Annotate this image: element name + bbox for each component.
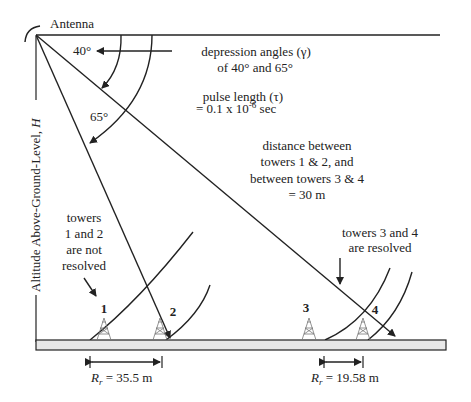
angle-arc-40 [102, 35, 121, 88]
range-left-label: Rr = 35.5 m [90, 370, 152, 387]
altitude-axis-label: Altitude Above-Ground-Level, H [28, 118, 43, 292]
antenna-label: Antenna [50, 16, 94, 31]
radar-resolution-diagram: Antenna Altitude Above-Ground-Level, H 4… [0, 0, 471, 402]
tower-4-label: 4 [372, 302, 379, 317]
distance-text-line4: = 30 m [289, 187, 326, 202]
not-resolved-arrow [84, 278, 96, 296]
resolved-line2: are resolved [348, 240, 412, 255]
not-resolved-line3: are not [66, 242, 102, 257]
pulse-length-value: = 0.1 x 10-6 sec [196, 100, 276, 116]
angle-65-label: 65° [90, 109, 108, 124]
depression-angles-values: of 40° and 65° [217, 60, 293, 75]
tower-2-icon [153, 318, 167, 340]
not-resolved-line4: resolved [62, 258, 107, 273]
range-right-label: Rr = 19.58 m [310, 370, 379, 387]
distance-text-line1: distance between [262, 138, 352, 153]
depression-angles-text: depression angles (γ) [201, 44, 311, 59]
ground-surface [36, 340, 446, 350]
tower-4-icon [356, 318, 370, 340]
distance-text-line3: between towers 3 & 4 [250, 171, 365, 186]
tower-2-label: 2 [170, 304, 177, 319]
tower-3-label: 3 [303, 300, 310, 315]
angle-40-label: 40° [73, 43, 91, 58]
resolved-line1: towers 3 and 4 [342, 225, 419, 240]
not-resolved-line1: towers [67, 210, 102, 225]
tower-1-label: 1 [101, 301, 108, 316]
tower-3-icon [302, 318, 316, 340]
ray-65-degrees [36, 35, 170, 338]
not-resolved-line2: 1 and 2 [65, 226, 103, 241]
distance-text-line2: towers 1 & 2, and [261, 154, 354, 169]
